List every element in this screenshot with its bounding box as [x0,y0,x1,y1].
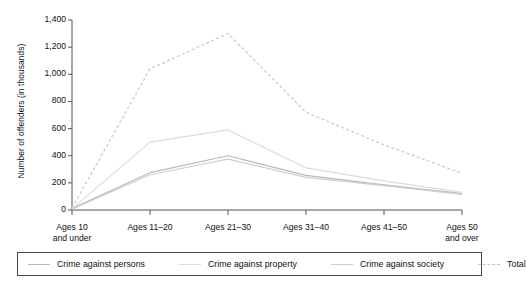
x-tick-label-line: and over [416,233,508,244]
chart-canvas [0,0,503,215]
x-tick-label-line: Ages 50 [416,222,508,233]
legend-line-swatch [331,264,353,265]
x-tick-label-line: and under [26,233,118,244]
y-axis-tick-labels: 02004006008001,0001,2001,400 [22,0,66,215]
series-line-0 [72,156,462,209]
legend-item-label: Crime against society [360,259,444,269]
legend-item-1[interactable]: Crime against property [179,259,297,269]
y-tick-label: 400 [24,151,66,160]
legend-line-swatch [179,264,201,265]
legend-line-swatch [28,264,50,265]
legend-item-label: Crime against persons [57,259,145,269]
chart-legend: Crime against personsCrime against prope… [17,252,482,276]
y-tick-label: 600 [24,124,66,133]
legend-item-3[interactable]: Total [478,259,526,269]
y-tick-label: 200 [24,178,66,187]
x-tick-label: Ages 50and over [416,222,508,245]
legend-item-0[interactable]: Crime against persons [28,259,145,269]
legend-line-swatch [478,264,500,265]
legend-item-label: Total [507,259,526,269]
legend-items: Crime against personsCrime against prope… [18,253,481,275]
y-tick-label: 1,200 [24,42,66,51]
legend-item-2[interactable]: Crime against society [331,259,444,269]
y-tick-label: 1,400 [24,15,66,24]
legend-item-label: Crime against property [208,259,297,269]
series-line-1 [72,130,462,209]
y-tick-label: 0 [24,205,66,214]
plot-area: Number of offenders (in thousands) 02004… [0,0,503,215]
x-axis-tick-labels: Ages 10and underAges 11–20Ages 21–30Ages… [0,215,503,255]
y-tick-label: 800 [24,96,66,105]
y-tick-label: 1,000 [24,69,66,78]
